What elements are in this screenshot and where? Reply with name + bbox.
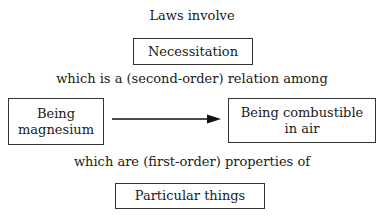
being-combustible-line1: Being combustible: [241, 105, 364, 121]
particular-things-box: Particular things: [115, 183, 265, 209]
being-combustible-box: Being combustible in air: [228, 98, 376, 143]
being-combustible-line2: in air: [285, 121, 320, 137]
property-text: which are (first-order) properties of: [0, 154, 384, 169]
arrowhead-icon: [207, 115, 221, 124]
particular-things-label: Particular things: [135, 188, 246, 204]
